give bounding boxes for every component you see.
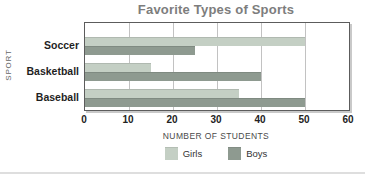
x-axis-ticks: 0102030405060 [0,114,365,126]
bar-girls-soccer [85,37,305,46]
legend-item-boys: Boys [228,147,267,160]
bar-boys-soccer [85,46,195,55]
x-tick-label-60: 60 [342,114,353,126]
category-label-soccer: Soccer [0,38,79,52]
bar-girls-baseball [85,89,239,98]
x-tick-label-50: 50 [298,114,309,126]
bar-girls-basketball [85,63,151,72]
category-label-baseball: Baseball [0,90,79,104]
plot-area [84,22,350,111]
x-tick-label-10: 10 [122,114,133,126]
legend-label-boys: Boys [246,148,267,159]
x-tick-label-20: 20 [166,114,177,126]
x-axis-title: NUMBER OF STUDENTS [84,131,348,141]
x-tick-label-30: 30 [210,114,221,126]
legend: GirlsBoys [84,147,348,160]
bar-boys-basketball [85,72,261,81]
legend-swatch-boys [228,147,241,160]
x-tick-label-0: 0 [81,114,87,126]
legend-label-girls: Girls [183,148,203,159]
scan-edge-line [0,172,365,174]
legend-item-girls: Girls [165,147,203,160]
legend-swatch-girls [165,147,178,160]
chart-figure: Favorite Types of Sports SPORT 010203040… [0,0,365,175]
x-tick-label-40: 40 [254,114,265,126]
chart-title: Favorite Types of Sports [84,2,348,17]
bar-boys-baseball [85,98,305,107]
category-label-basketball: Basketball [0,64,79,78]
